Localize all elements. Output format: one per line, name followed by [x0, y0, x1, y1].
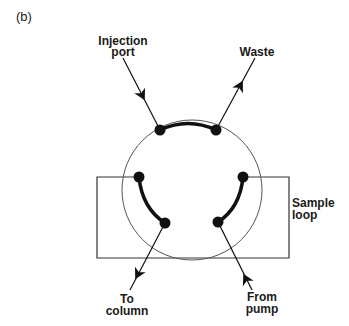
- port-left: [134, 172, 145, 183]
- panel-label: (b): [16, 9, 32, 24]
- svg-text:Waste: Waste: [240, 45, 275, 59]
- waste-line: [216, 58, 255, 130]
- valve-diagram: (b) Injection port Waste Sample: [0, 0, 349, 326]
- arrow-waste-icon: [232, 78, 248, 93]
- sample-loop-line: [97, 177, 289, 258]
- port-bottom-left: [160, 218, 171, 229]
- label-waste: Waste: [240, 45, 275, 59]
- arrow-from-pump-icon: [238, 271, 254, 286]
- port-right: [238, 172, 249, 183]
- arrow-to-column-icon: [130, 267, 146, 282]
- label-injection-port: Injection port: [98, 34, 147, 59]
- label-sample-loop: Sample loop: [292, 196, 335, 222]
- port-bottom-right: [213, 217, 224, 228]
- port-top-right: [211, 125, 222, 136]
- svg-text:port: port: [111, 45, 134, 59]
- channel-pump-to-loop: [218, 177, 243, 222]
- label-from-pump: From pump: [246, 290, 279, 316]
- svg-text:loop: loop: [292, 208, 317, 222]
- channel-loop-to-column: [139, 177, 165, 223]
- label-to-column: To column: [106, 292, 149, 318]
- port-top-left: [155, 125, 166, 136]
- svg-text:column: column: [106, 304, 149, 318]
- arrow-injection-icon: [134, 88, 150, 103]
- svg-text:pump: pump: [246, 302, 279, 316]
- to-column-line: [130, 223, 165, 290]
